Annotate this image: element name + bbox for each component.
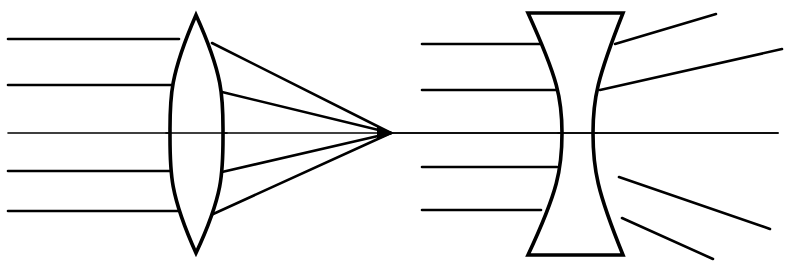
- optics-ray-diagram: [0, 0, 785, 267]
- optics-canvas: [0, 0, 785, 267]
